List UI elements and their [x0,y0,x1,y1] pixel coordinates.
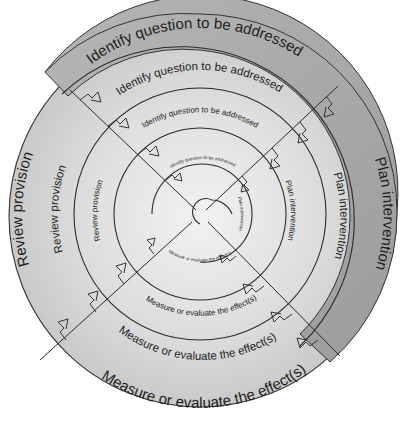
spiral-diagram: Identify question to be addressed Plan i… [0,0,402,422]
spiral-svg: Identify question to be addressed Plan i… [0,0,402,422]
